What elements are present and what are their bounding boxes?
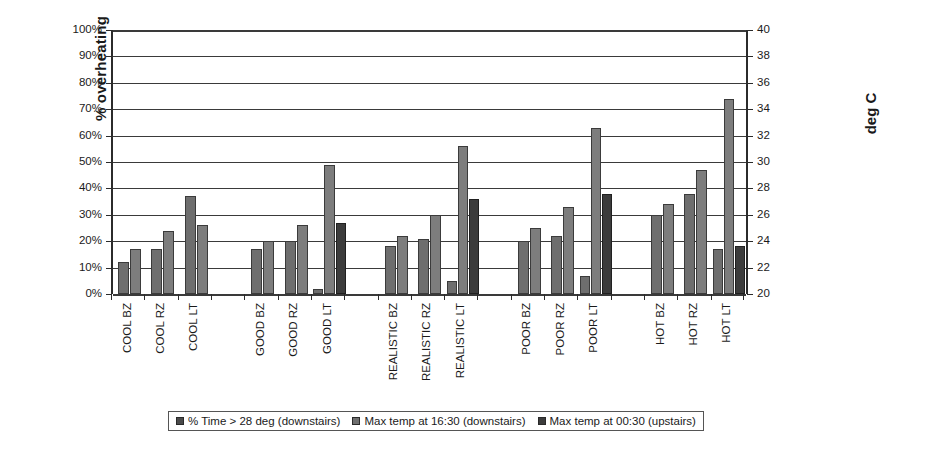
bar — [713, 249, 723, 294]
y-tick-label-right: 22 — [757, 262, 770, 274]
y-tick-label-left: 10% — [79, 262, 102, 274]
category-label: HOT LT — [711, 301, 744, 396]
y-tick-label-right: 26 — [757, 209, 770, 221]
y-tick-left — [106, 162, 112, 163]
category-label: COOL LT — [178, 301, 211, 396]
bar — [684, 194, 695, 294]
bar — [563, 207, 574, 294]
bar-group — [146, 30, 179, 294]
bar-group — [113, 30, 146, 294]
y-tick-left — [106, 136, 112, 137]
category-tick — [411, 294, 444, 301]
category-label-text: GOOD LT — [322, 303, 334, 354]
bar — [336, 223, 346, 294]
category-tick — [477, 294, 510, 301]
y-tick-label-right: 36 — [757, 77, 770, 89]
bar — [197, 225, 208, 294]
bar — [285, 241, 296, 294]
bar — [458, 146, 468, 294]
category-label: REALISTIC LT — [444, 301, 477, 396]
bar — [651, 215, 662, 294]
category-label-text: HOT RZ — [688, 303, 700, 346]
legend-label: % Time > 28 deg (downstairs) — [188, 415, 340, 427]
category-tick — [577, 294, 610, 301]
category-tick — [677, 294, 710, 301]
category-label: POOR BZ — [511, 301, 544, 396]
y-tick-right — [747, 109, 753, 110]
y-tick-right — [747, 162, 753, 163]
bar-group — [413, 30, 446, 294]
y-tick-label-right: 28 — [757, 182, 770, 194]
y-tick-right — [747, 215, 753, 216]
y-tick-label-right: 38 — [757, 50, 770, 62]
bar-group — [713, 30, 746, 294]
category-label: POOR LT — [577, 301, 610, 396]
bar — [297, 225, 308, 294]
bar — [130, 249, 141, 294]
bar-group-spacer — [479, 30, 512, 294]
y-tick-label-right: 32 — [757, 130, 770, 142]
legend-item: Max temp at 16:30 (downstairs) — [352, 415, 525, 427]
bar-series-container — [113, 30, 746, 294]
category-axis-ticks — [111, 294, 744, 301]
bar — [185, 196, 196, 294]
category-tick — [511, 294, 544, 301]
y-tick-label-right: 24 — [757, 235, 770, 247]
bar — [518, 241, 529, 294]
y-tick-right — [747, 294, 753, 295]
category-label: COOL RZ — [144, 301, 177, 396]
category-label-text: POOR BZ — [522, 303, 534, 355]
y-tick-left — [106, 83, 112, 84]
category-label-empty — [344, 301, 377, 396]
legend-item: Max temp at 00:30 (upstairs) — [538, 415, 696, 427]
category-label-text: REALISTIC RZ — [422, 303, 434, 381]
category-tick — [211, 294, 244, 301]
category-label-text: HOT BZ — [655, 303, 667, 345]
bar — [251, 249, 262, 294]
y-tick-left — [106, 241, 112, 242]
category-label: GOOD RZ — [278, 301, 311, 396]
bar-group — [180, 30, 213, 294]
y-tick-right — [747, 188, 753, 189]
y-tick-right — [747, 241, 753, 242]
bar-group — [679, 30, 712, 294]
y-tick-right — [747, 83, 753, 84]
bar — [151, 249, 162, 294]
bar-group — [546, 30, 579, 294]
y-tick-left — [106, 188, 112, 189]
bar — [469, 199, 479, 294]
legend-label: Max temp at 00:30 (upstairs) — [550, 415, 696, 427]
bar-group — [513, 30, 546, 294]
category-tick — [344, 294, 377, 301]
bar — [385, 246, 396, 294]
bar — [530, 228, 541, 294]
category-label-text: GOOD RZ — [288, 303, 300, 357]
category-label-text: COOL BZ — [122, 303, 134, 353]
category-label-text: GOOD BZ — [255, 303, 267, 356]
chart-legend: % Time > 28 deg (downstairs)Max temp at … — [168, 411, 704, 431]
bar — [696, 170, 707, 294]
category-label-text: POOR RZ — [555, 303, 567, 355]
category-label: COOL BZ — [111, 301, 144, 396]
y-tick-left — [106, 56, 112, 57]
legend-swatch-icon — [538, 417, 546, 425]
category-label-text: POOR LT — [588, 303, 600, 353]
category-tick — [278, 294, 311, 301]
category-tick — [311, 294, 344, 301]
y-tick-label-right: 34 — [757, 103, 770, 115]
y-tick-label-right: 40 — [757, 24, 770, 36]
y-tick-label-left: 60% — [79, 130, 102, 142]
bar-group — [313, 30, 346, 294]
category-label: GOOD LT — [311, 301, 344, 396]
bar — [735, 246, 745, 294]
legend-item: % Time > 28 deg (downstairs) — [176, 415, 340, 427]
y-tick-label-left: 100% — [73, 24, 102, 36]
bar — [430, 215, 441, 294]
category-label-text: REALISTIC BZ — [388, 303, 400, 380]
bar — [602, 194, 612, 294]
bar-group-spacer — [213, 30, 246, 294]
legend-swatch-icon — [176, 417, 184, 425]
bar — [724, 99, 734, 294]
chart-figure: % overheating deg C 0%2010%2220%2430%264… — [0, 0, 932, 452]
bar-group — [280, 30, 313, 294]
